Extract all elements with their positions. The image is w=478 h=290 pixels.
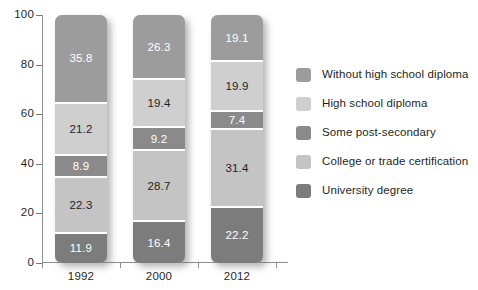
legend-swatch bbox=[296, 68, 311, 82]
bar-segment-value: 11.9 bbox=[70, 242, 92, 254]
x-tick-mark bbox=[276, 262, 277, 268]
bar-stack[interactable]: 26.319.49.228.716.4 bbox=[133, 15, 185, 263]
legend-item[interactable]: Without high school diploma bbox=[296, 64, 476, 85]
bar-segment[interactable]: 19.4 bbox=[133, 80, 185, 128]
y-tick-label: 40 bbox=[0, 158, 34, 170]
y-tick-label: 60 bbox=[0, 108, 34, 120]
bar-group: 19.119.97.431.422.2 bbox=[211, 15, 263, 263]
x-tick-label: 2000 bbox=[133, 270, 185, 283]
legend-label: High school diploma bbox=[322, 97, 427, 110]
bar-group: 26.319.49.228.716.4 bbox=[133, 15, 185, 263]
stacked-bar-chart: 020406080100 35.821.28.922.311.926.319.4… bbox=[0, 0, 478, 290]
bar-segment[interactable]: 7.4 bbox=[211, 112, 263, 130]
bar-segment-value: 16.4 bbox=[147, 237, 170, 249]
y-tick-mark bbox=[36, 164, 42, 165]
x-tick-mark bbox=[198, 262, 199, 268]
legend-swatch bbox=[296, 155, 311, 169]
y-tick-mark bbox=[36, 65, 42, 66]
bar-segment-value: 19.9 bbox=[225, 80, 248, 92]
legend-label: Some post-secondary bbox=[322, 126, 436, 139]
legend-item[interactable]: College or trade certification bbox=[296, 151, 476, 172]
bar-segment[interactable]: 28.7 bbox=[133, 151, 185, 222]
bar-segment[interactable]: 35.8 bbox=[55, 15, 107, 104]
x-tick-mark bbox=[42, 262, 43, 268]
bar-segment[interactable]: 8.9 bbox=[55, 156, 107, 178]
legend: Without high school diplomaHigh school d… bbox=[296, 64, 476, 209]
bar-segment-value: 19.1 bbox=[225, 32, 248, 44]
legend-label: Without high school diploma bbox=[322, 68, 469, 81]
bar-segment-value: 7.4 bbox=[229, 114, 246, 126]
bar-segment[interactable]: 19.1 bbox=[211, 15, 263, 62]
bar-segment-value: 21.2 bbox=[69, 123, 92, 135]
bar-group: 35.821.28.922.311.9 bbox=[55, 15, 107, 263]
x-tick-label: 1992 bbox=[55, 270, 107, 283]
legend-label: College or trade certification bbox=[322, 155, 468, 168]
legend-item[interactable]: High school diploma bbox=[296, 93, 476, 114]
legend-swatch bbox=[296, 126, 311, 140]
y-tick-mark bbox=[36, 15, 42, 16]
bar-segment-value: 8.9 bbox=[73, 160, 90, 172]
y-tick-label: 80 bbox=[0, 59, 34, 71]
legend-swatch bbox=[296, 97, 311, 111]
bar-segment-value: 26.3 bbox=[147, 41, 170, 53]
legend-label: University degree bbox=[322, 184, 413, 197]
bar-segment[interactable]: 26.3 bbox=[133, 15, 185, 80]
bar-segment[interactable]: 9.2 bbox=[133, 128, 185, 151]
bar-segment-value: 22.3 bbox=[69, 199, 92, 211]
bar-segment-value: 35.8 bbox=[69, 52, 92, 64]
bar-segment-value: 31.4 bbox=[225, 162, 248, 174]
bar-stack[interactable]: 19.119.97.431.422.2 bbox=[211, 15, 263, 263]
y-tick-label: 100 bbox=[0, 9, 34, 21]
bar-segment[interactable]: 31.4 bbox=[211, 130, 263, 208]
bars-layer: 35.821.28.922.311.926.319.49.228.716.419… bbox=[42, 15, 288, 263]
bar-segment-value: 9.2 bbox=[151, 133, 168, 145]
legend-item[interactable]: Some post-secondary bbox=[296, 122, 476, 143]
bar-stack[interactable]: 35.821.28.922.311.9 bbox=[55, 15, 107, 263]
x-axis: 199220002012 bbox=[42, 270, 288, 288]
x-tick-label: 2012 bbox=[211, 270, 263, 283]
legend-item[interactable]: University degree bbox=[296, 180, 476, 201]
bar-segment[interactable]: 21.2 bbox=[55, 104, 107, 157]
y-tick-mark bbox=[36, 114, 42, 115]
bar-segment-value: 22.2 bbox=[225, 229, 248, 241]
bar-segment[interactable]: 22.3 bbox=[55, 178, 107, 233]
bar-segment[interactable]: 19.9 bbox=[211, 62, 263, 111]
y-axis: 020406080100 bbox=[0, 0, 34, 290]
bar-segment[interactable]: 11.9 bbox=[55, 234, 107, 263]
bar-segment-value: 19.4 bbox=[147, 97, 170, 109]
bar-segment[interactable]: 22.2 bbox=[211, 208, 263, 263]
x-tick-mark bbox=[120, 262, 121, 268]
y-tick-mark bbox=[36, 213, 42, 214]
bar-segment[interactable]: 16.4 bbox=[133, 222, 185, 263]
y-tick-label: 20 bbox=[0, 207, 34, 219]
y-tick-label: 0 bbox=[0, 257, 34, 269]
bar-segment-value: 28.7 bbox=[147, 180, 170, 192]
plot-area: 020406080100 35.821.28.922.311.926.319.4… bbox=[0, 0, 292, 290]
legend-swatch bbox=[296, 184, 311, 198]
